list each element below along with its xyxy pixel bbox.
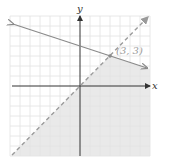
graph: (3, 3) x y <box>0 0 169 166</box>
intersection-point <box>108 54 112 58</box>
y-axis-label: y <box>76 3 83 14</box>
x-axis-label: x <box>152 80 158 91</box>
point-label: (3, 3) <box>116 45 143 56</box>
